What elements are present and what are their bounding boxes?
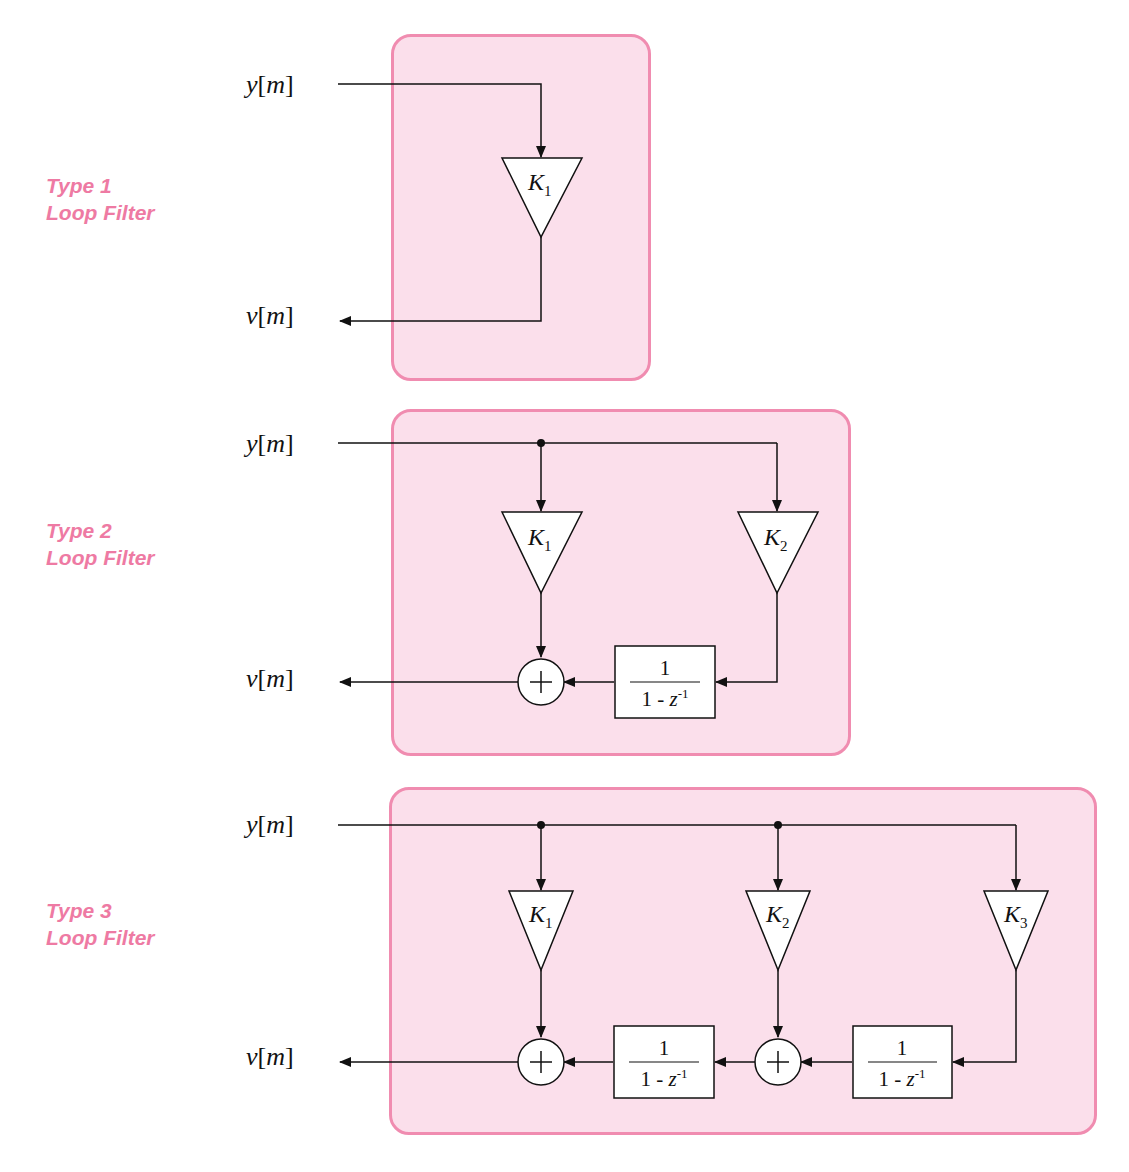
type3-summer-1 xyxy=(518,1039,564,1085)
type2-junction-dot xyxy=(537,439,545,447)
type3-summer-2 xyxy=(755,1039,801,1085)
type2-summer xyxy=(518,659,564,705)
type3-integrator-2-numerator: 1 xyxy=(897,1036,908,1060)
type2-integrator-numerator: 1 xyxy=(660,656,671,680)
type3-junction-dot-2 xyxy=(774,821,782,829)
block-diagram: K1 K1 K2 K1 K2 K3 1 1 - z-1 1 1 - z-1 1 xyxy=(0,0,1129,1172)
type3-junction-dot-1 xyxy=(537,821,545,829)
type3-integrator-1-numerator: 1 xyxy=(659,1036,670,1060)
type1-wiring xyxy=(338,84,541,321)
